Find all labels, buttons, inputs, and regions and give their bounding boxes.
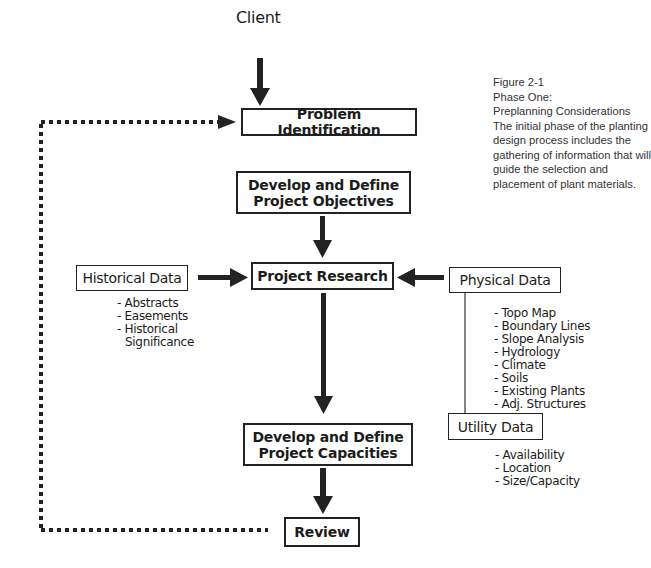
review-box: Review	[284, 517, 360, 547]
physical-data-label: Physical Data	[460, 272, 551, 288]
problem-identification-label: Problem Identification	[243, 106, 415, 138]
utility-data-list: - Availability - Location - Size/Capacit…	[495, 449, 580, 488]
physical-data-box: Physical Data	[449, 267, 561, 293]
arrow-objectives-to-research	[313, 216, 332, 258]
historical-data-box: Historical Data	[76, 265, 188, 291]
figure-title: Preplanning Considerations	[493, 104, 651, 119]
historical-data-list: - Abstracts - Easements - Historical Sig…	[117, 297, 194, 349]
utility-data-label: Utility Data	[458, 419, 533, 435]
arrow-physical-to-research	[397, 268, 444, 287]
review-label: Review	[294, 524, 349, 540]
arrow-research-to-capacities	[314, 293, 333, 414]
arrow-client-to-problem	[250, 58, 270, 106]
figure-phase: Phase One:	[493, 90, 651, 105]
project-research-box: Project Research	[251, 262, 394, 290]
physical-data-list: - Topo Map - Boundary Lines - Slope Anal…	[494, 307, 590, 411]
objectives-line2: Project Objectives	[253, 193, 393, 209]
figure-number: Figure 2-1	[493, 75, 651, 90]
capacities-line2: Project Capacities	[259, 445, 398, 461]
list-item: Significance	[117, 336, 194, 349]
capacities-line1: Develop and Define	[252, 429, 403, 445]
utility-data-box: Utility Data	[448, 413, 543, 440]
project-research-label: Project Research	[257, 268, 387, 284]
list-item: - Adj. Structures	[494, 398, 590, 411]
historical-data-label: Historical Data	[83, 270, 182, 286]
figure-caption: Figure 2-1 Phase One: Preplanning Consid…	[493, 75, 651, 191]
client-label: Client	[236, 8, 281, 27]
arrow-capacities-to-review	[313, 468, 333, 514]
project-objectives-box: Develop and Define Project Objectives	[236, 171, 411, 214]
problem-identification-box: Problem Identification	[241, 108, 417, 136]
objectives-line1: Develop and Define	[248, 177, 399, 193]
arrow-historical-to-research	[198, 268, 248, 287]
list-item: - Size/Capacity	[495, 475, 580, 488]
project-capacities-box: Develop and Define Project Capacities	[243, 423, 413, 466]
figure-description: The initial phase of the planting design…	[493, 119, 651, 192]
